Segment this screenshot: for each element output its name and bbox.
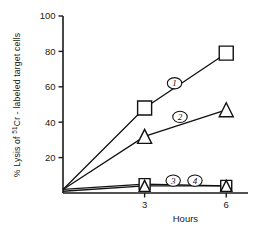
data-point-marker-square — [138, 101, 152, 115]
data-point-marker-triangle — [219, 103, 233, 117]
x-axis-label: Hours — [173, 213, 199, 224]
y-tick-label: 60 — [45, 81, 56, 92]
x-tick-label: 6 — [224, 199, 229, 210]
series-line-1 — [63, 53, 226, 189]
data-point-marker-triangle — [138, 129, 152, 143]
curve-label-text: 3 — [170, 176, 176, 186]
curve-label-text: 1 — [172, 78, 177, 88]
x-tick-label: 3 — [142, 199, 147, 210]
series-line-2 — [63, 110, 226, 190]
chart-plot-area: % Lysis of 51Cr - labeled target cells20… — [0, 0, 259, 234]
y-axis-label: % Lysis of 51Cr - labeled target cells — [11, 33, 22, 177]
data-point-marker-square — [219, 46, 233, 60]
lysis-line-chart: % Lysis of 51Cr - labeled target cells20… — [0, 0, 259, 234]
y-tick-label: 80 — [45, 46, 56, 57]
y-tick-label: 40 — [45, 117, 56, 128]
curve-label-text: 2 — [178, 112, 183, 122]
y-tick-label: 100 — [40, 10, 56, 21]
curve-label-text: 4 — [193, 176, 198, 186]
y-tick-label: 20 — [45, 152, 56, 163]
